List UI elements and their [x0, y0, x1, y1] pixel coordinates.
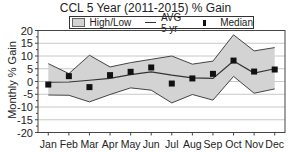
median-marker [272, 67, 278, 73]
x-tick-label: Nov [245, 138, 264, 150]
chart-plot: 20151050-5-10-15-20JanFebMarAprMayJunJul… [0, 0, 291, 152]
median-marker [128, 69, 134, 75]
y-tick-label: 20 [21, 25, 33, 37]
x-tick-label: Oct [225, 138, 241, 150]
median-marker [86, 84, 92, 90]
median-marker [66, 73, 72, 79]
x-tick-label: Feb [60, 138, 78, 150]
median-marker [231, 58, 237, 64]
median-marker [45, 82, 51, 88]
x-tick-label: May [121, 138, 142, 150]
x-tick-label: Jul [165, 138, 178, 150]
y-tick-label: 10 [21, 50, 33, 62]
x-tick-label: Jan [40, 138, 57, 150]
median-marker [210, 71, 216, 77]
y-tick-label: -15 [17, 114, 33, 126]
median-marker [148, 64, 154, 70]
median-marker [107, 72, 113, 78]
y-tick-label: -20 [17, 127, 33, 139]
high-low-band [48, 35, 274, 103]
x-tick-label: Sep [204, 138, 223, 150]
median-marker [169, 81, 175, 87]
y-tick-label: 5 [27, 63, 33, 75]
x-tick-label: Aug [183, 138, 202, 150]
x-tick-label: Mar [80, 138, 99, 150]
x-tick-label: Apr [102, 138, 119, 150]
y-tick-label: 15 [21, 37, 33, 49]
x-tick-label: Jun [143, 138, 160, 150]
y-tick-label: 0 [27, 76, 33, 88]
y-tick-label: -10 [17, 101, 33, 113]
median-marker [189, 75, 195, 81]
y-tick-label: -5 [23, 88, 33, 100]
median-marker [251, 69, 257, 75]
x-tick-label: Dec [265, 138, 284, 150]
